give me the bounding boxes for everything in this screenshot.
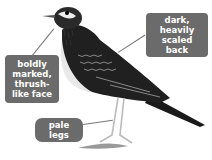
annotation-back: dark, heavily scaled back (146, 13, 208, 57)
bird-feet (78, 143, 128, 148)
bird-eye (65, 11, 69, 15)
annotation-face: boldly marked, thrush-like face (5, 55, 59, 103)
annotation-legs: pale legs (35, 118, 83, 142)
bird-beak (42, 15, 55, 18)
